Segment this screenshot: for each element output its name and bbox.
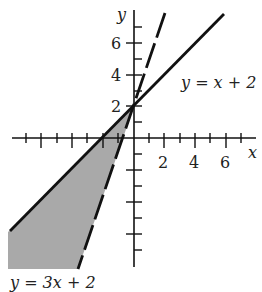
equation-label-solid: y = x + 2: [180, 73, 256, 92]
x-tick-label-2: 2: [158, 153, 168, 172]
y-tick-label-2: 2: [111, 97, 121, 116]
shaded-region: [8, 106, 134, 269]
equation-label-dashed: y = 3x + 2: [9, 273, 96, 292]
x-tick-label-4: 4: [189, 153, 199, 172]
x-tick-label-6: 6: [220, 153, 230, 172]
line-y-equals-3x-plus-2: [78, 13, 165, 269]
x-axis-label: x: [248, 143, 257, 162]
chart: y x 6 4 2 2 4 6 y = x + 2 y = 3x + 2: [0, 0, 262, 292]
y-tick-label-6: 6: [111, 34, 121, 53]
y-tick-label-4: 4: [111, 66, 121, 85]
y-axis-label: y: [116, 5, 127, 24]
